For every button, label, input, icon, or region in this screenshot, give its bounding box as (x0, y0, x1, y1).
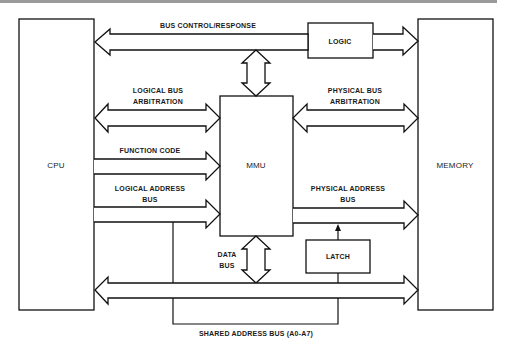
bus-control-response-arrow (95, 29, 308, 55)
logical-address-bus-arrow (94, 200, 220, 228)
logical-bus-arbitration-arrow (95, 104, 220, 132)
physical-address-bus-label-1: PHYSICAL ADDRESS (311, 185, 386, 192)
physical-address-bus-arrow (293, 201, 418, 229)
physical-bus-arbitration-arrow (293, 104, 418, 132)
data-bus-label-1: DATA (217, 251, 236, 258)
data-bus-vertical-arrow (242, 236, 270, 283)
logical-bus-arbitration-label-2: ARBITRATION (133, 98, 183, 105)
function-code-arrow (94, 152, 220, 180)
mmu-block-diagram: CPU MEMORY MMU LOGIC LATCH BUS CONTROL/R… (0, 0, 507, 350)
logical-bus-arbitration-label-1: LOGICAL BUS (133, 87, 183, 94)
function-code-label: FUNCTION CODE (120, 147, 181, 154)
data-bus-label-2: BUS (219, 262, 235, 269)
shared-address-bus-label: SHARED ADDRESS BUS (A0-A7) (199, 330, 313, 338)
logic-label: LOGIC (328, 38, 351, 45)
logical-address-bus-label-2: BUS (142, 196, 158, 203)
bus-control-to-mmu-arrow (242, 50, 270, 96)
physical-bus-arbitration-label-2: ARBITRATION (330, 98, 380, 105)
cpu-label: CPU (47, 161, 65, 170)
mmu-label: MMU (246, 161, 266, 170)
latch-label: LATCH (326, 253, 350, 260)
physical-bus-arbitration-label-1: PHYSICAL BUS (328, 87, 383, 94)
bus-control-response-label: BUS CONTROL/RESPONSE (160, 22, 256, 29)
physical-address-bus-label-2: BUS (340, 196, 356, 203)
memory-label: MEMORY (436, 161, 474, 170)
logic-to-memory-arrow (373, 27, 418, 55)
shared-address-bus-line (173, 298, 338, 324)
latch-arrowhead (335, 224, 341, 231)
logical-address-bus-label-1: LOGICAL ADDRESS (115, 185, 185, 192)
